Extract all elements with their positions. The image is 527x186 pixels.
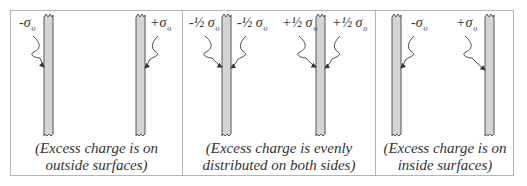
arrow-2-l-out [204, 36, 222, 67]
sigma-symbol: σ [305, 15, 312, 30]
label-fraction: ½ [341, 15, 355, 30]
charge-label-1-right: +σo [150, 15, 171, 33]
caption-inside: (Excess charge is on inside surfaces) [376, 140, 514, 174]
sigma-symbol: σ [465, 15, 472, 30]
caption-line-1: (Excess charge is on [11, 140, 182, 157]
arrow-2-r-out [298, 36, 316, 67]
plate-3-right [485, 14, 494, 136]
charge-label-3-left: -σo [411, 15, 428, 33]
label-fraction: ½ [291, 15, 305, 30]
charge-label-2-3: +½ σo [282, 15, 317, 33]
arrow-1-right [145, 36, 158, 68]
arrow-1-left [32, 36, 44, 67]
charge-label-2-1: -½ σo [189, 15, 220, 33]
label-fraction: ½ [242, 15, 256, 30]
caption-line-2: outside surfaces) [11, 157, 182, 174]
label-subscript: o [32, 24, 36, 33]
caption-line-2: inside surfaces) [376, 157, 514, 174]
label-subscript: o [473, 24, 477, 33]
charge-label-1-left: -σo [19, 15, 36, 33]
label-fraction: ½ [194, 15, 208, 30]
plate-1-right [136, 14, 145, 136]
charge-label-3-right: +σo [456, 15, 477, 33]
caption-line-1: (Excess charge is on [376, 140, 514, 157]
plate-2-left [222, 14, 231, 136]
label-subscript: o [424, 24, 428, 33]
charge-label-2-2: -½ σo [237, 15, 268, 33]
label-subscript: o [167, 24, 171, 33]
label-subscript: o [264, 24, 268, 33]
sigma-symbol: σ [208, 15, 215, 30]
plate-1-left [44, 14, 53, 136]
label-subscript: o [313, 24, 317, 33]
label-subscript: o [216, 24, 220, 33]
sigma-symbol: σ [159, 15, 166, 30]
caption-outside: (Excess charge is on outside surfaces) [11, 140, 182, 174]
sigma-symbol: σ [355, 15, 362, 30]
caption-line-2: distributed on both sides) [183, 157, 375, 174]
arrow-2-r-in [325, 36, 340, 68]
sigma-symbol: σ [256, 15, 263, 30]
sigma-symbol: σ [24, 15, 31, 30]
arrow-2-l-in [231, 36, 246, 68]
plate-3-left [392, 14, 401, 136]
caption-line-1: (Excess charge is evenly [183, 140, 375, 157]
caption-evenly: (Excess charge is evenly distributed on … [183, 140, 375, 174]
label-subscript: o [363, 24, 367, 33]
arrow-3-right [464, 36, 485, 70]
arrow-3-left [401, 36, 414, 68]
sigma-symbol: σ [416, 15, 423, 30]
charge-label-2-4: +½ σo [332, 15, 367, 33]
